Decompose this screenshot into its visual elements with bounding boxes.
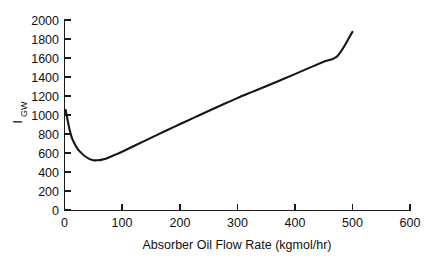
chart-canvas: 2000 1800 1600 1400 1200 1000 800 600 40… <box>0 0 435 272</box>
y-tick-label: 600 <box>38 147 59 161</box>
chart-background <box>0 0 435 272</box>
y-tick-label: 1400 <box>31 71 59 85</box>
x-tick-label: 400 <box>285 216 306 230</box>
x-tick-label: 200 <box>170 216 191 230</box>
y-tick-label: 2000 <box>31 14 59 28</box>
x-tick-label: 500 <box>342 216 363 230</box>
y-tick-label: 1200 <box>31 90 59 104</box>
x-tick-label: 0 <box>61 216 68 230</box>
y-axis-title-main: I <box>10 120 25 124</box>
chart-figure: 2000 1800 1600 1400 1200 1000 800 600 40… <box>0 0 435 272</box>
x-tick-label: 300 <box>227 216 248 230</box>
y-tick-label: 200 <box>38 185 59 199</box>
x-axis-title: Absorber Oil Flow Rate (kgmol/hr) <box>143 238 332 252</box>
y-tick-label: 1600 <box>31 52 59 66</box>
y-tick-label: 1000 <box>31 109 59 123</box>
y-tick-label: 400 <box>38 166 59 180</box>
y-axis-title-subscript: GW <box>19 101 29 117</box>
y-tick-label: 1800 <box>31 33 59 47</box>
y-tick-label: 0 <box>52 204 59 218</box>
x-tick-label: 100 <box>112 216 133 230</box>
x-tick-label: 600 <box>400 216 421 230</box>
y-tick-label: 800 <box>38 128 59 142</box>
